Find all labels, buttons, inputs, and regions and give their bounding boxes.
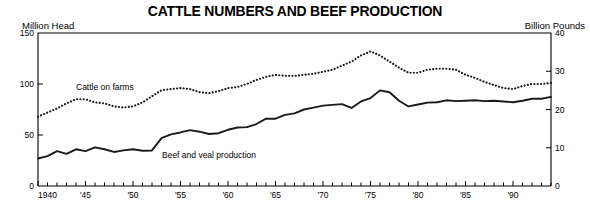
svg-text:0: 0 xyxy=(555,181,560,191)
svg-text:150: 150 xyxy=(20,28,34,38)
svg-text:20: 20 xyxy=(555,105,565,115)
plot-frame xyxy=(38,33,551,186)
svg-text:'85: '85 xyxy=(460,190,471,200)
svg-text:0: 0 xyxy=(29,181,34,191)
x-axis-ticks: 1940'45'50'55'60'65'70'75'80'85'90 xyxy=(38,181,551,200)
svg-text:40: 40 xyxy=(555,28,565,38)
svg-text:'55: '55 xyxy=(175,190,186,200)
svg-text:'90: '90 xyxy=(507,190,518,200)
svg-text:'65: '65 xyxy=(270,190,281,200)
svg-text:'80: '80 xyxy=(412,190,423,200)
svg-text:1940: 1940 xyxy=(38,190,57,200)
svg-text:'60: '60 xyxy=(222,190,233,200)
svg-text:'75: '75 xyxy=(365,190,376,200)
svg-text:100: 100 xyxy=(20,79,34,89)
svg-text:30: 30 xyxy=(555,66,565,76)
svg-text:50: 50 xyxy=(25,130,35,140)
series-line-beef xyxy=(38,90,551,158)
data-series-group xyxy=(38,51,551,158)
chart-container: CATTLE NUMBERS AND BEEF PRODUCTION Milli… xyxy=(0,0,590,213)
svg-text:10: 10 xyxy=(555,143,565,153)
right-axis-ticks: 010203040 xyxy=(546,28,565,191)
svg-text:'70: '70 xyxy=(317,190,328,200)
left-axis-ticks: 050100150 xyxy=(20,28,43,191)
svg-text:'45: '45 xyxy=(80,190,91,200)
series-label-cattle: Cattle on farms xyxy=(76,82,134,92)
svg-text:'50: '50 xyxy=(127,190,138,200)
series-label-beef: Beef and veal production xyxy=(162,150,256,160)
chart-plot: 050100150 010203040 1940'45'50'55'60'65'… xyxy=(0,0,590,213)
